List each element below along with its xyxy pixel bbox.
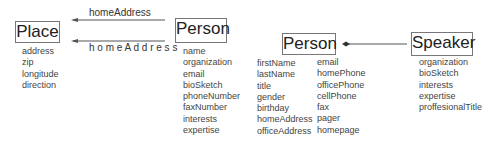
attribute: lastName [257,69,313,80]
attribute: officePhone [317,80,366,91]
edge-label-homeaddress: homeAddress [89,7,151,18]
attribute: direction [22,80,59,91]
speaker-title: Speaker [412,33,475,52]
attribute: homeAddress [257,114,313,125]
person-title: Person [176,19,230,38]
attribute: bioSketch [183,80,240,91]
attribute: fax [317,102,366,113]
attribute: phoneNumber [183,91,240,102]
attribute: officeAddress [257,126,313,137]
arrowhead-icon [71,18,78,22]
person-title: Person [283,34,337,53]
attribute: organization [419,57,482,68]
speaker-box[interactable]: Speaker [411,32,473,56]
attribute: homepage [317,125,366,136]
attribute: address [22,46,59,57]
place-box[interactable]: Place [15,21,60,43]
attribute: email [183,69,240,80]
attribute: bioSketch [419,68,482,79]
person-attributes-col1: firstName lastName title gender birthday… [257,58,313,137]
attribute: proffesionalTitle [419,102,482,113]
diamond-icon [342,42,350,47]
attribute: expertise [419,91,482,102]
person-box-right[interactable]: Person [282,33,336,55]
attribute: name [183,46,240,57]
arrowhead-icon [71,39,78,43]
place-title: Place [16,22,59,41]
attribute: longitude [22,69,59,80]
attribute: gender [257,92,313,103]
attribute: interests [183,114,240,125]
attribute: homePhone [317,68,366,79]
attribute: expertise [183,125,240,136]
person-attributes-left: name organization email bioSketch phoneN… [183,46,240,136]
place-attributes: address zip longitude direction [22,46,59,91]
attribute: organization [183,57,240,68]
edge-label-homeaddress-spaced: h o m e A d d r e s s [89,42,177,53]
attribute: faxNumber [183,102,240,113]
person-attributes-col2: email homePhone officePhone cellPhone fa… [317,57,366,136]
speaker-attributes: organization bioSketch interests experti… [419,57,482,113]
attribute: birthday [257,103,313,114]
person-box-left[interactable]: Person [175,18,227,43]
attribute: cellPhone [317,91,366,102]
attribute: interests [419,80,482,91]
attribute: title [257,81,313,92]
attribute: firstName [257,58,313,69]
attribute: pager [317,113,366,124]
attribute: zip [22,57,59,68]
attribute: email [317,57,366,68]
